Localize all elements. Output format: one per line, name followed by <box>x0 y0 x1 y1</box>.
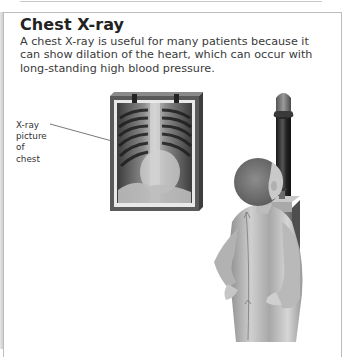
film-clip-left <box>132 94 137 103</box>
callout-leader-line <box>50 124 112 141</box>
xray-lightbox <box>110 92 203 211</box>
film-clip-right <box>174 94 179 103</box>
